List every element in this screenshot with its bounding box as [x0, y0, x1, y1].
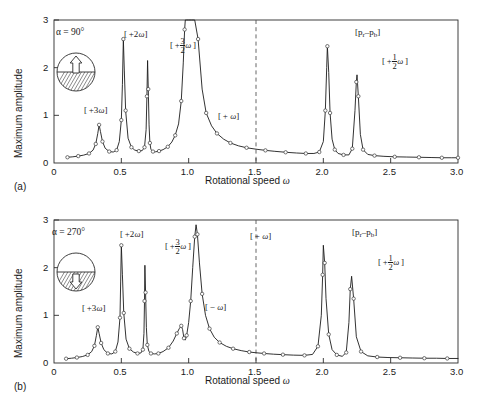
data-point-marker [141, 348, 144, 351]
data-point-marker [281, 353, 284, 356]
peak-label-pr-pb-a: [pr–pb] [355, 28, 380, 39]
y-tick-label: 1 [43, 110, 48, 120]
data-point-marker [94, 142, 97, 145]
peak-label-half-omega-b: [ +12ω ] [378, 254, 404, 272]
data-point-marker [208, 327, 211, 330]
panel-caption-a: (a) [14, 182, 26, 192]
data-point-marker [204, 111, 207, 114]
x-tick-label: 0.5 [113, 167, 126, 177]
data-point-marker [229, 141, 232, 144]
x-tick-label: 1.5 [248, 167, 261, 177]
data-point-marker [87, 152, 90, 155]
data-point-marker [106, 352, 109, 355]
y-tick-label: 3 [43, 15, 48, 25]
y-tick-label: 0 [43, 158, 48, 168]
data-curve [66, 225, 458, 359]
data-point-marker [143, 146, 146, 149]
peak-label-3over2-omega-b: [ +32ω ] [165, 238, 191, 256]
data-point-marker [440, 156, 443, 159]
x-tick-label: 2.5 [383, 367, 396, 377]
x-tick-label: 2.5 [383, 167, 396, 177]
peak-label-2omega-a: [ +2ω] [124, 30, 147, 39]
data-point-marker [151, 150, 154, 153]
data-point-marker [185, 334, 188, 337]
data-point-marker [189, 299, 192, 302]
x-tick-label: 1.0 [181, 367, 194, 377]
data-point-marker [101, 140, 104, 143]
data-point-marker [321, 273, 324, 276]
data-point-marker [128, 347, 131, 350]
peak-label-minus-omega-b: [ − ω] [205, 303, 226, 312]
y-axis-label-b: Maximum amplitude [14, 269, 24, 358]
data-point-marker [355, 80, 358, 83]
data-point-marker [115, 148, 118, 151]
data-point-marker [144, 291, 147, 294]
data-point-marker [318, 150, 321, 153]
data-point-marker [423, 357, 426, 360]
data-point-marker [351, 147, 354, 150]
data-point-marker [146, 343, 149, 346]
data-point-marker [97, 123, 100, 126]
data-point-marker [183, 28, 186, 31]
data-point-marker [245, 146, 248, 149]
data-point-marker [352, 297, 355, 300]
data-point-marker [231, 347, 234, 350]
x-axis-label-text-a: Rotational speed [205, 175, 280, 186]
data-point-marker [157, 352, 160, 355]
data-point-marker [345, 351, 348, 354]
data-point-marker [303, 354, 306, 357]
data-point-marker [137, 149, 140, 152]
data-point-marker [118, 316, 121, 319]
x-axis-label-text-b: Rotational speed [205, 375, 280, 386]
data-point-marker [96, 326, 99, 329]
data-point-marker [196, 233, 199, 236]
y-tick-label: 1 [43, 310, 48, 320]
x-tick-label: 0 [51, 367, 56, 377]
data-point-marker [66, 156, 69, 159]
data-point-marker [130, 146, 133, 149]
data-point-marker [316, 345, 319, 348]
data-curve [67, 20, 458, 158]
data-point-marker [218, 341, 221, 344]
x-axis-label-symbol-a: ω [283, 175, 290, 186]
x-tick-label: 2.0 [315, 167, 328, 177]
data-point-marker [64, 357, 67, 360]
peak-label-pr-pb-b: [pr–pb] [352, 228, 377, 239]
data-point-marker [175, 332, 178, 335]
x-tick-label: 1.0 [181, 167, 194, 177]
data-point-marker [284, 151, 287, 154]
data-point-marker [326, 45, 329, 48]
data-point-marker [342, 153, 345, 156]
y-tick-label: 2 [43, 63, 48, 73]
data-point-marker [328, 111, 331, 114]
half-filled-circle-up-arrow [50, 51, 127, 97]
data-point-marker [304, 152, 307, 155]
data-point-marker [166, 145, 169, 148]
data-point-marker [180, 99, 183, 102]
x-axis-label-a: Rotational speed ω [205, 176, 290, 186]
data-point-marker [357, 95, 360, 98]
data-point-marker [376, 355, 379, 358]
data-point-marker [373, 154, 376, 157]
data-point-marker [120, 118, 123, 121]
data-point-marker [359, 350, 362, 353]
data-point-marker [108, 150, 111, 153]
data-point-marker [180, 324, 183, 327]
data-point-marker [200, 292, 203, 295]
alpha-label-b: α = 270° [52, 228, 85, 238]
y-tick-label: 0 [43, 358, 48, 368]
data-point-marker [149, 352, 152, 355]
data-point-marker [99, 341, 102, 344]
panel-b: Maximum amplitude Rotational speed ω (b)… [0, 200, 481, 400]
data-point-marker [417, 156, 420, 159]
figure-root: Maximum amplitude Rotational speed ω (a)… [0, 0, 481, 400]
data-point-marker [86, 353, 89, 356]
data-point-marker [114, 350, 117, 353]
data-point-marker [456, 156, 459, 159]
data-point-marker [264, 149, 267, 152]
data-point-marker [136, 352, 139, 355]
data-point-marker [349, 287, 352, 290]
data-point-marker [446, 357, 449, 360]
x-tick-label: 1.5 [248, 367, 261, 377]
y-tick-label: 3 [43, 215, 48, 225]
